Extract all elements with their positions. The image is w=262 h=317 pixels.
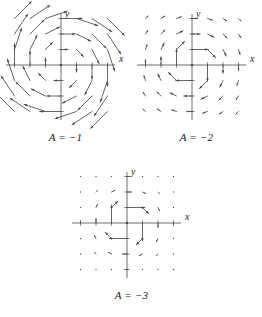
field-point	[157, 269, 158, 270]
field-arrow	[143, 208, 149, 214]
field-arrow	[220, 81, 223, 88]
field-arrow	[156, 254, 158, 256]
field-arrow	[161, 16, 165, 19]
field-point	[95, 269, 96, 270]
field-arrow	[77, 34, 91, 41]
panel-caption-2: A = −2	[131, 131, 262, 143]
field-arrow	[85, 81, 92, 95]
field-arrow	[238, 65, 240, 70]
field-arrow	[92, 34, 106, 48]
field-point	[80, 191, 81, 192]
field-arrow	[158, 208, 160, 211]
vector-field-panel-3: yx	[66, 166, 197, 286]
vector-field-figure: yx A = −1 yx A = −2 yx A = −3	[0, 0, 262, 317]
field-arrow	[15, 28, 22, 49]
field-arrow	[223, 19, 227, 22]
panel-caption-1: A = −1	[0, 131, 131, 143]
field-arrow	[92, 50, 99, 64]
field-arrow	[223, 50, 226, 57]
vector-field-plot-2: yx	[131, 8, 262, 128]
field-arrow	[184, 95, 192, 98]
field-arrow	[161, 30, 165, 34]
field-arrow	[177, 41, 185, 49]
field-arrow	[192, 33, 200, 36]
x-axis-label: x	[118, 53, 124, 64]
axes	[137, 14, 246, 120]
field-arrow	[143, 92, 146, 96]
field-arrow	[38, 73, 45, 80]
field-arrow	[105, 232, 111, 238]
field-arrow	[145, 60, 147, 65]
field-arrow	[239, 19, 242, 22]
field-arrow	[77, 19, 98, 26]
field-arrow	[203, 112, 208, 114]
field-arrow	[112, 190, 115, 192]
field-arrow	[30, 35, 37, 49]
field-arrow	[173, 223, 174, 225]
field-arrow	[127, 191, 131, 193]
field-point	[80, 176, 81, 177]
field-arrow	[156, 239, 158, 242]
field-arrow	[96, 204, 98, 207]
panel-caption-3: A = −3	[66, 289, 197, 301]
field-arrow	[157, 223, 159, 227]
field-arrow	[201, 96, 208, 99]
field-arrow	[239, 50, 241, 55]
field-arrow	[139, 254, 142, 256]
field-arrow	[236, 96, 239, 100]
field-arrow	[199, 81, 207, 89]
field-point	[173, 269, 174, 270]
field-arrow	[141, 223, 144, 241]
field-arrow	[206, 65, 209, 81]
field-arrow	[80, 221, 81, 223]
vector-field-plot-1: yx	[0, 8, 131, 128]
field-arrow	[109, 237, 127, 240]
field-arrow	[160, 57, 163, 65]
field-arrow	[123, 253, 127, 255]
field-arrow	[208, 19, 213, 21]
field-arrow	[222, 65, 225, 73]
y-axis-label: y	[195, 8, 201, 19]
y-axis-label: y	[130, 166, 136, 177]
field-arrow	[158, 74, 161, 81]
field-point	[142, 176, 143, 177]
field-point	[80, 269, 81, 270]
field-arrow	[161, 43, 164, 50]
field-arrow	[177, 17, 182, 19]
field-arrow	[96, 190, 98, 192]
field-point	[111, 176, 112, 177]
field-point	[173, 253, 174, 254]
field-point	[173, 176, 174, 177]
field-arrow	[61, 33, 75, 36]
field-arrow	[112, 201, 118, 207]
field-point	[173, 238, 174, 239]
vector-field-plot-3: yx	[66, 166, 197, 286]
field-arrow	[157, 92, 161, 96]
y-axis-label: y	[64, 8, 70, 19]
field-arrow	[0, 95, 15, 112]
field-arrow	[170, 93, 177, 96]
field-arrow	[30, 5, 50, 18]
field-arrow	[136, 239, 142, 245]
field-arrow	[54, 79, 61, 82]
field-arrow	[15, 2, 32, 19]
field-arrow	[219, 112, 223, 115]
field-arrow	[144, 76, 146, 81]
field-arrow	[1, 76, 14, 96]
field-arrow	[108, 50, 115, 71]
field-arrow	[236, 112, 239, 115]
field-arrow	[61, 48, 68, 51]
vector-field-panel-1: yx	[0, 8, 131, 128]
origin-point	[126, 222, 129, 225]
field-point	[95, 176, 96, 177]
field-arrow	[208, 50, 216, 58]
field-arrow	[7, 59, 14, 80]
field-arrow	[175, 49, 178, 65]
axes	[72, 172, 181, 278]
field-arrow	[46, 11, 67, 18]
field-arrow	[31, 89, 45, 96]
field-arrow	[192, 48, 208, 51]
field-arrow	[44, 58, 47, 65]
field-arrow	[146, 45, 148, 50]
field-arrow	[219, 96, 223, 100]
